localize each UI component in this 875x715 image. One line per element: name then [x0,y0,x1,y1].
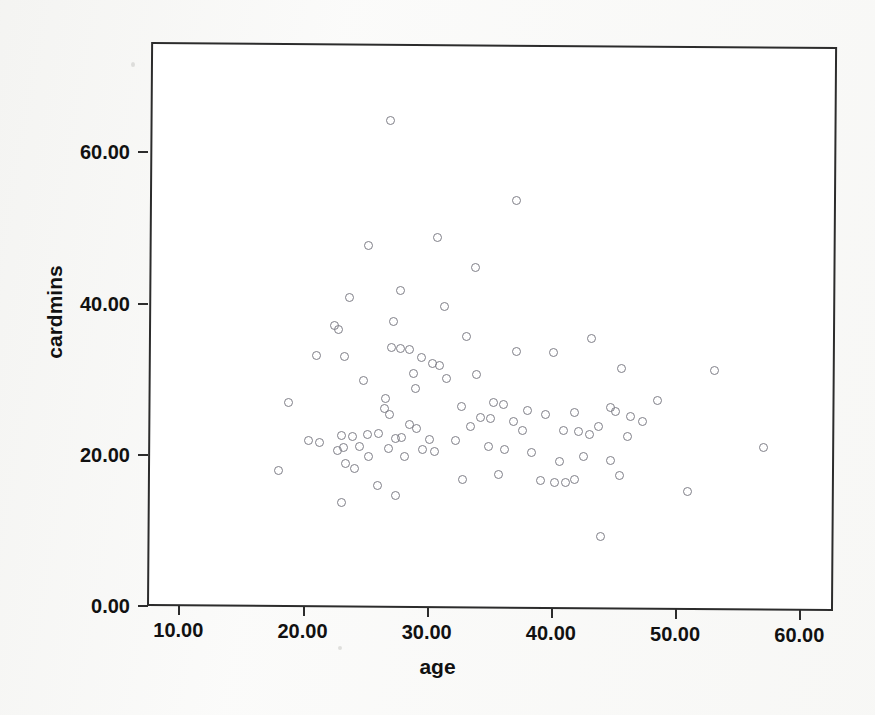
scan-speck [131,62,135,67]
x-axis-tick-label: 60.00 [774,624,824,647]
x-axis-tick [427,607,429,617]
x-axis-tick [799,610,801,620]
y-axis-tick-label: 0.00 [42,595,130,618]
scan-speck [338,646,342,650]
y-axis-tick-label: 60.00 [42,141,130,164]
x-axis-tick-label: 40.00 [526,622,576,645]
y-axis-tick [138,605,148,607]
x-axis-tick-label: 10.00 [153,619,203,642]
y-axis-tick-label: 20.00 [42,443,130,466]
x-axis-tick [178,605,180,615]
chart-page: 10.0020.0030.0040.0050.0060.000.0020.004… [0,0,875,715]
y-axis-tick [138,454,148,456]
y-axis-label: cardmins [43,212,67,412]
plot-frame [147,42,837,611]
x-axis-tick-label: 20.00 [277,620,327,643]
x-axis-tick-label: 30.00 [402,621,452,644]
y-axis-tick [138,151,148,153]
x-axis-tick-label: 50.00 [650,623,700,646]
x-axis-tick [303,606,305,616]
x-axis-tick [551,608,553,618]
y-axis-tick [138,303,148,305]
x-axis-label: age [0,655,875,679]
x-axis-tick [675,609,677,619]
